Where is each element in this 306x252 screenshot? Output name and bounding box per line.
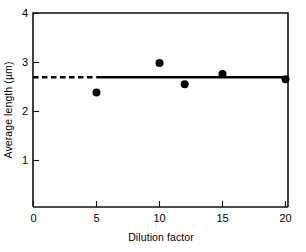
- data-point: [219, 70, 227, 78]
- data-point: [181, 80, 189, 88]
- data-point: [282, 75, 290, 83]
- x-tick-label-15: 15: [217, 212, 229, 224]
- x-axis-title: Dilution factor: [128, 231, 194, 243]
- y-tick-label-4: 4: [22, 7, 28, 19]
- y-tick-label-2: 2: [22, 105, 28, 117]
- figure-container: 4 3 2 1 0 5 10 15 20 Dilution factor Ave…: [0, 0, 306, 252]
- data-point: [93, 89, 101, 97]
- x-tick-label-10: 10: [154, 212, 166, 224]
- data-point: [156, 59, 164, 67]
- x-tick-label-5: 5: [94, 212, 100, 224]
- scatter-plot: 4 3 2 1 0 5 10 15 20 Dilution factor Ave…: [0, 0, 306, 252]
- y-tick-label-1: 1: [22, 154, 28, 166]
- x-tick-label-0: 0: [31, 212, 37, 224]
- x-tick-label-20: 20: [280, 212, 292, 224]
- y-axis-ticks: [33, 14, 39, 161]
- y-axis-title: Average length (µm): [2, 61, 14, 158]
- x-axis-ticks: [34, 201, 286, 207]
- plot-frame: [33, 13, 288, 207]
- y-tick-label-3: 3: [22, 56, 28, 68]
